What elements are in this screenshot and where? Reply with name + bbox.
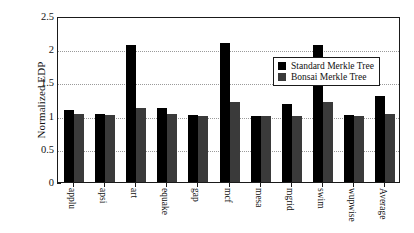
bar-standard [188,115,198,182]
x-axis-tick-mark [229,183,230,187]
x-axis-tick-label: art [129,188,139,233]
bar-standard [251,116,261,182]
x-axis-tick-label: applu [67,188,77,233]
bar-standard [126,45,136,182]
x-axis-tick-mark [291,183,292,187]
y-axis-tick-label: 0 [4,178,54,188]
legend-label-standard: Standard Merkle Tree [291,61,374,71]
bar-standard [157,108,167,182]
bar-group [313,17,333,182]
x-axis-tick-mark [166,183,167,187]
legend-swatch-bonsai-icon [278,73,286,81]
x-axis-tick-label: apsi [98,188,108,233]
x-axis-tick-label: gap [191,188,201,233]
bar-bonsai [105,115,115,182]
bar-standard [64,110,74,182]
y-axis-tick-label: 2.5 [4,12,54,22]
bar-group [344,17,364,182]
x-axis-tick-mark [260,183,261,187]
x-axis-tick-label: equake [160,188,170,233]
bar-bonsai [230,102,240,182]
bar-standard [95,114,105,182]
bar-bonsai [261,116,271,182]
bar-bonsai [323,102,333,182]
bar-bonsai [385,114,395,182]
bar-bonsai [74,114,84,182]
x-axis-tick-mark [104,183,105,187]
bar-group [126,17,146,182]
y-axis-tick-label: 0.5 [4,145,54,155]
x-axis-tick-mark [384,183,385,187]
legend-label-bonsai: Bonsai Merkle Tree [291,72,366,82]
legend: Standard Merkle Tree Bonsai Merkle Tree [273,57,380,86]
bar-group [188,17,208,182]
y-axis-tick-mark [57,183,61,184]
y-axis-title: Normalized EDP [35,15,47,185]
legend-swatch-standard-icon [278,62,286,70]
x-axis-tick-mark [353,183,354,187]
bar-chart: Normalized EDP 00.511.522.5 appluapsiart… [0,0,414,233]
bar-standard [220,43,230,182]
plot-area [57,17,400,183]
bar-group [157,17,177,182]
bar-group [282,17,302,182]
y-axis-tick-label: 2 [4,45,54,55]
x-axis-tick-label: mcf [223,188,233,233]
y-axis-tick-label: 1 [4,112,54,122]
legend-item-standard: Standard Merkle Tree [278,60,374,71]
bar-bonsai [354,116,364,182]
bar-standard [375,96,385,182]
bar-bonsai [198,116,208,182]
x-axis-tick-mark [135,183,136,187]
y-axis-tick-label: 1.5 [4,78,54,88]
bar-group [251,17,271,182]
bar-standard [344,115,354,182]
x-axis-tick-mark [322,183,323,187]
bar-group [64,17,84,182]
bar-bonsai [136,108,146,182]
bar-group [375,17,395,182]
bar-group [95,17,115,182]
x-axis-tick-mark [73,183,74,187]
bar-bonsai [167,114,177,182]
x-axis-tick-label: swim [316,188,326,233]
x-axis-tick-label: mgrid [285,188,295,233]
bar-group [220,17,240,182]
bar-standard [282,104,292,182]
bar-bonsai [292,116,302,182]
x-axis-tick-label: Average [378,188,388,233]
legend-item-bonsai: Bonsai Merkle Tree [278,71,374,82]
x-axis-tick-label: wupwise [347,188,357,233]
x-axis-tick-label: mesa [254,188,264,233]
x-axis-tick-mark [197,183,198,187]
